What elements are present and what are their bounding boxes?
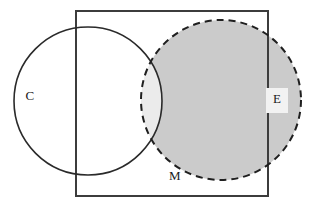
set-label-m: M [169, 168, 181, 183]
venn-diagram-figure: C M E [0, 0, 311, 213]
set-label-c: C [26, 88, 35, 103]
venn-diagram-canvas: C M E [0, 0, 311, 213]
set-label-e: E [273, 91, 281, 106]
